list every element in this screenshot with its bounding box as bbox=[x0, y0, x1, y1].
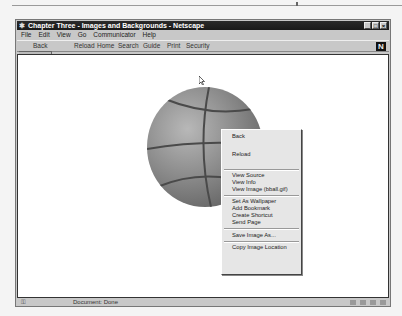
menu-file[interactable]: File bbox=[21, 31, 31, 39]
maximize-button[interactable]: □ bbox=[372, 22, 379, 29]
component-bar bbox=[350, 300, 386, 305]
page-content[interactable] bbox=[17, 54, 389, 298]
menu-bar: File Edit View Go Communicator Help bbox=[17, 31, 389, 39]
back-button[interactable]: Back bbox=[33, 41, 47, 51]
context-menu: Back Reload View Source View Info View I… bbox=[221, 129, 302, 275]
print-button[interactable]: Print bbox=[167, 41, 180, 51]
close-button[interactable]: × bbox=[380, 22, 387, 29]
security-lock-icon[interactable]: ⚿ bbox=[21, 299, 26, 306]
netscape-app-icon[interactable]: ✱ bbox=[19, 22, 26, 29]
menu-help[interactable]: Help bbox=[143, 31, 156, 39]
ctx-create-shortcut[interactable]: Create Shortcut bbox=[232, 212, 273, 219]
minimize-button[interactable]: _ bbox=[364, 22, 371, 29]
netscape-logo[interactable]: N bbox=[376, 42, 386, 51]
browser-window: ✱ Chapter Three - Images and Backgrounds… bbox=[15, 19, 391, 307]
navigation-toolbar: Back Forward Reload Home Search Guide Pr… bbox=[17, 40, 389, 52]
ctx-separator bbox=[224, 241, 299, 243]
reload-button[interactable]: Reload bbox=[74, 41, 95, 51]
ctx-view-info[interactable]: View Info bbox=[232, 179, 256, 186]
security-button[interactable]: Security bbox=[186, 41, 209, 51]
discussions-icon[interactable] bbox=[370, 300, 376, 305]
ctx-send-page[interactable]: Send Page bbox=[232, 219, 261, 226]
mouse-cursor-icon bbox=[199, 76, 205, 85]
composer-icon[interactable] bbox=[380, 300, 386, 305]
ctx-view-image[interactable]: View Image (bball.gif) bbox=[232, 186, 288, 193]
page-scan-mark bbox=[296, 2, 298, 6]
ctx-add-bookmark[interactable]: Add Bookmark bbox=[232, 205, 270, 212]
menu-communicator[interactable]: Communicator bbox=[93, 31, 135, 39]
window-title: Chapter Three - Images and Backgrounds -… bbox=[28, 21, 204, 30]
menu-go[interactable]: Go bbox=[78, 31, 87, 39]
ctx-set-wallpaper[interactable]: Set As Wallpaper bbox=[232, 198, 276, 205]
search-button[interactable]: Search bbox=[118, 41, 139, 51]
ctx-back[interactable]: Back bbox=[232, 133, 245, 140]
navigator-icon[interactable] bbox=[350, 300, 356, 305]
status-bar: ⚿ Document: Done bbox=[17, 299, 389, 306]
title-bar[interactable]: ✱ Chapter Three - Images and Backgrounds… bbox=[17, 21, 389, 30]
menu-edit[interactable]: Edit bbox=[38, 31, 49, 39]
home-button[interactable]: Home bbox=[97, 41, 114, 51]
status-text: Document: Done bbox=[73, 299, 118, 306]
ctx-separator bbox=[224, 228, 299, 230]
stop-button[interactable]: Stop bbox=[213, 41, 226, 51]
ctx-separator bbox=[224, 169, 299, 171]
ctx-copy-image-location[interactable]: Copy Image Location bbox=[232, 244, 287, 251]
guide-button[interactable]: Guide bbox=[143, 41, 160, 51]
mail-icon[interactable] bbox=[360, 300, 366, 305]
page-scan-line bbox=[12, 5, 402, 6]
ctx-save-image-as[interactable]: Save Image As... bbox=[232, 232, 276, 239]
ctx-view-source[interactable]: View Source bbox=[232, 172, 264, 179]
window-controls: _ □ × bbox=[364, 22, 387, 29]
ctx-separator bbox=[224, 195, 299, 197]
ctx-reload[interactable]: Reload bbox=[232, 151, 250, 158]
menu-view[interactable]: View bbox=[57, 31, 71, 39]
